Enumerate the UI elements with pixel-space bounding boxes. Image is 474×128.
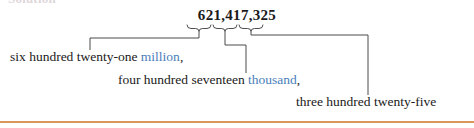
expansion-line-ones: three hundred twenty-five xyxy=(296,95,436,109)
expansion-comma-millions: , xyxy=(180,49,183,64)
section-divider-rule xyxy=(0,121,474,123)
expansion-words-millions: six hundred twenty-one xyxy=(10,49,137,64)
brace-thousands xyxy=(213,25,237,32)
leader-line-millions xyxy=(90,32,199,51)
expansion-words-thousands: four hundred seventeen xyxy=(118,72,245,87)
period-word-million: million xyxy=(141,49,180,64)
period-word-thousand: thousand xyxy=(248,72,297,87)
worked-example-figure: Solution 621,417,325 six hundred twenty-… xyxy=(0,0,474,128)
leader-line-thousands xyxy=(225,32,246,74)
expansion-words-ones: three hundred twenty-five xyxy=(296,94,436,109)
expansion-line-thousands: four hundred seventeen thousand, xyxy=(118,73,300,87)
expansion-comma-thousands: , xyxy=(297,72,300,87)
brace-millions xyxy=(187,25,211,32)
expansion-line-millions: six hundred twenty-one million, xyxy=(10,50,183,64)
brace-ones xyxy=(239,25,263,32)
